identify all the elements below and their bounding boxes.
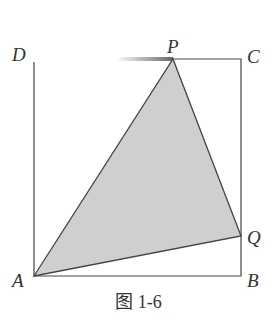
label-P: P [167,36,179,58]
label-C: C [247,46,260,68]
square-diagram [0,0,277,333]
label-D: D [12,44,26,66]
smudge-mark [116,57,173,61]
figure-caption: 图 1-6 [0,287,277,313]
triangle-APQ [34,59,241,276]
label-Q: Q [247,227,261,249]
